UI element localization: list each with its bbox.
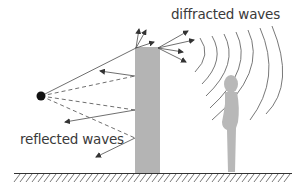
diagram-svg	[0, 0, 304, 193]
person-silhouette	[222, 75, 239, 172]
diffracted-waves-label: diffracted waves	[171, 6, 280, 22]
reflected-waves-label: reflected waves	[20, 131, 124, 147]
source-point	[37, 92, 46, 101]
ground	[14, 174, 292, 183]
diffracted-wavefronts	[195, 26, 283, 120]
diagram-canvas: diffracted waves reflected waves	[0, 0, 304, 193]
wall	[135, 47, 160, 173]
